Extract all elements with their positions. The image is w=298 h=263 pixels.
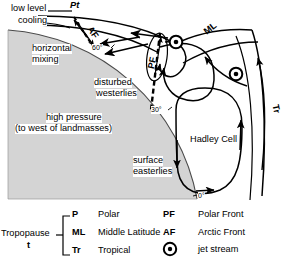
legend-tropopause-sublabel: t — [27, 241, 30, 251]
legend-name-jet-stream: jet stream — [198, 245, 238, 255]
legend-tropopause-label: Tropopause — [1, 229, 50, 239]
legend-name-tropical: Tropical — [98, 246, 130, 256]
legend-name-middle-latitude: Middle Latitude — [98, 228, 160, 238]
label-polar-tropopause-pt: Pt — [70, 1, 79, 11]
label-horizontal-mixing-line2: mixing — [32, 55, 59, 65]
legend-name-polar: Polar — [98, 210, 119, 220]
label-low-level: low level — [11, 4, 46, 14]
label-disturbed-line1: disturbed — [94, 78, 132, 88]
diagram-canvas: low level cooling Pt AF PF ML Tr horizon… — [0, 0, 298, 263]
legend-name-arctic-front: Arctic Front — [198, 228, 245, 238]
legend-code-tr: Tr — [72, 246, 81, 256]
label-high-pressure-line2: (to west of landmasses) — [15, 124, 112, 134]
jet-stream-symbol-midlatitude — [170, 36, 183, 49]
latitude-label-0: 0° — [198, 192, 205, 200]
label-cooling: cooling — [18, 16, 47, 26]
label-high-pressure-line1: high pressure — [46, 113, 102, 123]
legend-code-pf: PF — [163, 210, 175, 220]
legend-jet-stream-icon — [164, 243, 176, 255]
jet-stream-symbol-subtropical — [230, 68, 243, 81]
label-horizontal-mixing-line1: horizontal — [32, 44, 72, 54]
latitude-label-60: 60° — [92, 44, 103, 52]
label-surface-easterlies-line1: surface — [133, 156, 163, 166]
legend-code-af: AF — [163, 228, 175, 238]
legend-bracket — [56, 216, 70, 255]
middle-latitude-tropopause-line — [171, 30, 258, 63]
tropical-tropopause-line — [236, 30, 264, 200]
label-hadley-cell: Hadley Cell — [190, 135, 237, 145]
label-disturbed-line2: westerlies — [96, 89, 137, 99]
label-tropical-tr: Tr — [270, 104, 282, 115]
label-surface-easterlies-line2: easterlies — [133, 167, 172, 177]
legend-code-p: P — [72, 210, 78, 220]
legend-name-polar-front: Polar Front — [198, 210, 243, 220]
legend-code-ml: ML — [72, 228, 85, 238]
latitude-label-30: 30° — [151, 106, 162, 114]
